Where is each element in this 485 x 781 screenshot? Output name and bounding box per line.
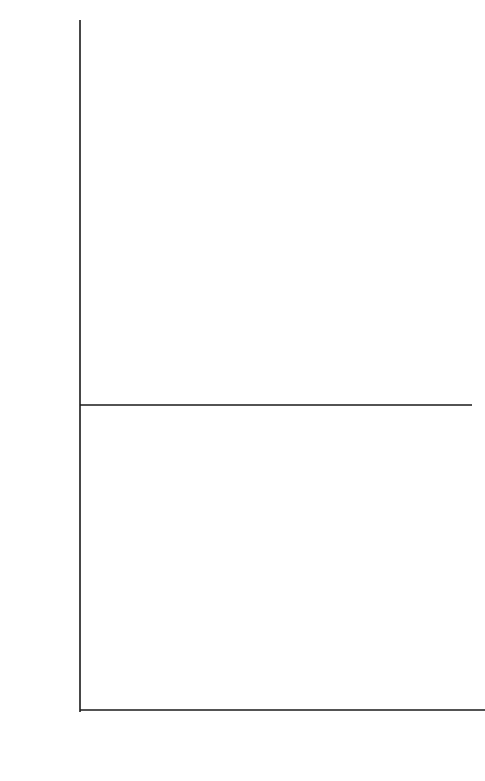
axes	[80, 20, 485, 712]
chart	[0, 0, 485, 781]
